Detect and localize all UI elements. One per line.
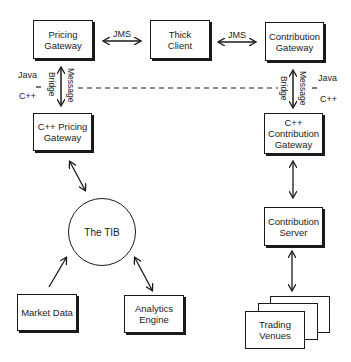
tib-bus-node: The TIB xyxy=(68,198,136,266)
market-data-node: Market Data xyxy=(17,294,77,331)
analytics-tib-arrow xyxy=(135,258,152,290)
pricing-gateway-node: Pricing Gateway xyxy=(33,20,93,59)
java-label-right: Java xyxy=(318,73,337,83)
analytics-engine-label: Analytics Engine xyxy=(135,303,173,325)
market-data-label: Market Data xyxy=(21,307,73,318)
contribution-server-label: Contribution Server xyxy=(268,216,319,238)
message-label-right: Message xyxy=(298,71,308,106)
thick-client-label: Thick Client xyxy=(168,29,192,51)
analytics-engine-node: Analytics Engine xyxy=(124,295,184,333)
contribution-server-node: Contribution Server xyxy=(264,207,323,246)
pricing-gateway-label: Pricing Gateway xyxy=(44,29,82,51)
cpp-pricing-gateway-label: C++ Pricing Gateway xyxy=(38,121,88,143)
pricing-tib-arrow xyxy=(70,162,85,190)
cpp-label-left: C++ xyxy=(19,91,36,101)
bridge-label-right: Bridge xyxy=(279,76,289,101)
bridge-label-left: Bridge xyxy=(47,72,57,97)
trading-venues-node: Trading Venues xyxy=(245,311,305,349)
cpp-label-right: C++ xyxy=(320,94,337,104)
cpp-contribution-gateway-node: C++ Contribution Gateway xyxy=(264,113,323,154)
java-label-left: Java xyxy=(18,70,37,80)
market-data-arrow xyxy=(49,258,66,287)
contribution-gateway-label: Contribution Gateway xyxy=(269,31,320,53)
jms-label-right: JMS xyxy=(228,30,246,40)
message-label-left: Message xyxy=(66,68,76,103)
tib-label: The TIB xyxy=(84,227,119,238)
jms-label-left: JMS xyxy=(113,29,131,39)
cpp-pricing-gateway-node: C++ Pricing Gateway xyxy=(33,113,92,151)
contribution-gateway-node: Contribution Gateway xyxy=(265,22,324,61)
cpp-contribution-gateway-label: C++ Contribution Gateway xyxy=(268,117,319,150)
thick-client-node: Thick Client xyxy=(150,20,210,59)
trading-venues-label: Trading Venues xyxy=(259,319,291,341)
